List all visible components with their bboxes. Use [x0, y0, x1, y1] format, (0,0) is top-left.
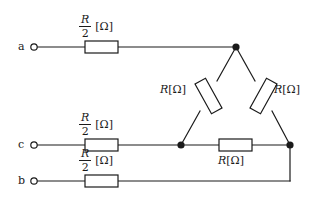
- unit-ohm-a: [Ω]: [95, 21, 113, 32]
- unit-ohm-delta-bottom: [Ω]: [226, 154, 244, 167]
- resistor-box-b: [85, 175, 118, 187]
- fraction-r-over-2-c: R 2: [79, 112, 91, 137]
- circuit-svg: [0, 0, 317, 204]
- terminal-circle-a: [31, 44, 37, 50]
- resistor-label-a: R 2 [Ω]: [79, 14, 113, 39]
- resistor-box-delta-bottom: [219, 139, 252, 151]
- fraction-r-over-2-a: R 2: [79, 14, 91, 39]
- terminal-label-b: b: [18, 175, 25, 186]
- fraction-numerator: R: [79, 148, 91, 160]
- fraction-denominator: 2: [80, 125, 91, 137]
- unit-ohm-delta-right: [Ω]: [282, 83, 300, 96]
- unit-ohm-delta-left: [Ω]: [168, 83, 186, 96]
- wire-delta-left-lower: [181, 111, 200, 145]
- fraction-denominator: 2: [80, 161, 91, 173]
- fraction-denominator: 2: [80, 27, 91, 39]
- fraction-numerator: R: [79, 112, 91, 124]
- terminal-circle-c: [31, 142, 37, 148]
- resistor-label-delta-bottom: R[Ω]: [218, 155, 244, 166]
- terminal-circle-b: [31, 178, 37, 184]
- unit-ohm-b: [Ω]: [95, 155, 113, 166]
- resistor-label-delta-right: R[Ω]: [274, 84, 300, 95]
- resistor-label-c: R 2 [Ω]: [79, 112, 113, 137]
- terminal-label-c: c: [18, 139, 24, 150]
- wire-delta-right-lower: [272, 111, 290, 145]
- fraction-numerator: R: [79, 14, 91, 26]
- resistor-label-b: R 2 [Ω]: [79, 148, 113, 173]
- unit-ohm-c: [Ω]: [95, 119, 113, 130]
- resistor-label-delta-left: R[Ω]: [160, 84, 186, 95]
- resistor-box-a: [85, 41, 118, 53]
- wire-delta-left-upper: [217, 47, 236, 81]
- resistor-box-delta-right: [250, 78, 277, 114]
- junction-dot-bottom-left: [177, 141, 184, 148]
- wire-delta-right-upper: [236, 47, 255, 81]
- junction-dot-bottom-right: [286, 141, 293, 148]
- fraction-r-over-2-b: R 2: [79, 148, 91, 173]
- resistor-box-delta-left: [195, 78, 222, 114]
- terminal-label-a: a: [18, 41, 25, 52]
- junction-dot-apex: [232, 43, 239, 50]
- circuit-diagram: a c b R 2 [Ω] R 2 [Ω] R 2 [Ω] R[Ω] R[Ω]: [0, 0, 317, 204]
